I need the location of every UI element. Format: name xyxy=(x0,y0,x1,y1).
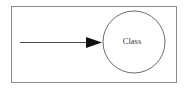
diagram-svg: Class xyxy=(0,0,185,90)
diagram-canvas: Class xyxy=(0,0,185,90)
class-node-label: Class xyxy=(123,36,141,46)
